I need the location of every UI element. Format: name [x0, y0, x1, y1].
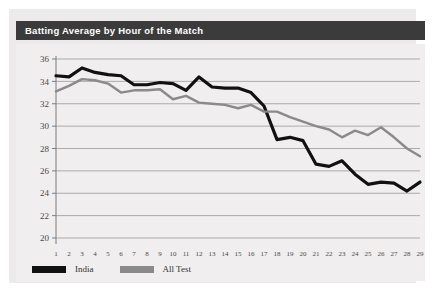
y-axis-tick-label: 30 — [40, 121, 50, 131]
x-axis-tick-label: 13 — [209, 250, 217, 258]
y-axis-tick-label: 36 — [40, 54, 50, 64]
y-axis-tick-label: 32 — [40, 99, 49, 109]
x-axis-tick-label: 25 — [365, 250, 373, 258]
x-axis-tick-label: 7 — [132, 250, 136, 258]
x-axis-tick-label: 5 — [106, 250, 110, 258]
legend-item-all-test: All Test — [120, 264, 191, 274]
plot-panel: 202224262830323436 123456789101112131415… — [16, 44, 425, 281]
x-axis-tick-label: 10 — [170, 250, 178, 258]
x-axis-tick-label: 14 — [222, 250, 230, 258]
data-series-group — [56, 68, 420, 191]
x-axis-tick-label: 4 — [93, 250, 97, 258]
x-axis-tick-label: 19 — [287, 250, 295, 258]
x-axis-tick-label: 24 — [352, 250, 360, 258]
x-axis-tick-label: 11 — [183, 250, 190, 258]
series-line-all-test — [56, 79, 420, 156]
x-axis-tick-label: 29 — [417, 250, 425, 258]
legend-swatch-all-test-icon — [120, 266, 154, 273]
plot-area: 202224262830323436 123456789101112131415… — [16, 44, 425, 281]
chart-figure: Batting Average by Hour of the Match 202… — [0, 0, 443, 298]
y-axis-tick-label: 22 — [40, 211, 49, 221]
x-axis-tick-label: 22 — [326, 250, 334, 258]
chart-legend: India All Test — [16, 259, 425, 279]
x-axis-tick-label: 26 — [378, 250, 386, 258]
x-axis-tick-label: 2 — [67, 250, 71, 258]
legend-item-india: India — [32, 264, 94, 274]
x-axis-tick-label: 1 — [54, 250, 58, 258]
x-axis-tick-label: 28 — [404, 250, 412, 258]
legend-label-india: India — [75, 264, 94, 274]
line-chart-svg: 202224262830323436 123456789101112131415… — [16, 44, 425, 281]
x-axis-tick-label: 18 — [274, 250, 282, 258]
x-axis-tick-label: 3 — [80, 250, 84, 258]
x-axis-tick-label: 16 — [248, 250, 256, 258]
x-axis-tick-label: 20 — [300, 250, 308, 258]
y-axis-tick-label: 28 — [40, 144, 50, 154]
x-axis-tick-label: 8 — [145, 250, 149, 258]
y-axis-tick-label: 24 — [40, 188, 50, 198]
legend-swatch-india-icon — [32, 266, 66, 273]
y-axis-tick-label: 34 — [40, 77, 50, 87]
x-axis-tick-label: 27 — [391, 250, 399, 258]
y-axis-tick-label: 20 — [40, 233, 50, 243]
legend-label-all-test: All Test — [163, 264, 191, 274]
x-axis-tick-label: 6 — [119, 250, 123, 258]
page-title: Batting Average by Hour of the Match — [16, 25, 203, 36]
x-axis-tick-label: 17 — [261, 250, 269, 258]
x-axis-tick-label: 23 — [339, 250, 347, 258]
x-axis-labels-group: 1234567891011121314151617181920212223242… — [54, 250, 424, 258]
x-axis-tick-label: 12 — [196, 250, 204, 258]
y-axis-tick-label: 26 — [40, 166, 50, 176]
x-axis-tick-label: 15 — [235, 250, 243, 258]
x-axis-tick-label: 21 — [313, 250, 321, 258]
chart-title-bar: Batting Average by Hour of the Match — [16, 21, 425, 40]
y-axis-labels-group: 202224262830323436 — [40, 54, 50, 243]
x-axis-tick-label: 9 — [158, 250, 162, 258]
y-axis-ticks-group — [52, 59, 56, 238]
